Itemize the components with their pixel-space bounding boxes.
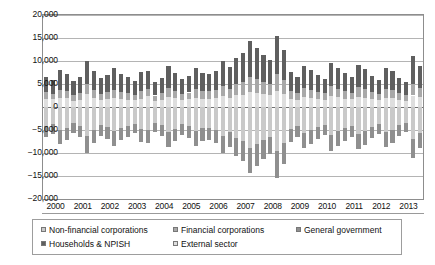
bar-segment: [65, 98, 69, 107]
bar-segment: [309, 90, 313, 98]
bar-segment: [139, 99, 143, 107]
bar-segment: [282, 107, 286, 143]
bar-group: [397, 15, 401, 199]
bar-segment: [92, 90, 96, 98]
bar-segment: [51, 94, 55, 99]
bar-segment: [377, 94, 381, 100]
bar-segment: [316, 75, 320, 92]
bar-segment: [255, 93, 259, 107]
bar-segment: [112, 98, 116, 107]
bar-segment: [248, 41, 252, 76]
bar-group: [187, 15, 191, 199]
bar-group: [173, 15, 177, 199]
x-axis-tick: 2006: [205, 202, 232, 211]
bar-segment: [160, 93, 164, 99]
plot-area: [42, 14, 424, 200]
bar-segment: [241, 141, 245, 161]
bar-group: [390, 15, 394, 199]
bar-segment: [139, 107, 143, 129]
legend-item[interactable]: General government: [296, 225, 382, 235]
bar-segment: [65, 128, 69, 140]
bar-segment: [99, 125, 103, 136]
bar-segment: [78, 93, 82, 100]
legend-item[interactable]: Non-financial corporations: [41, 225, 148, 235]
bar-segment: [180, 124, 184, 134]
bar-segment: [173, 107, 177, 129]
bar-segment: [65, 107, 69, 128]
bar-segment: [411, 56, 415, 83]
bar-segment: [336, 107, 340, 131]
bar-group: [133, 15, 137, 199]
bar-segment: [295, 126, 299, 137]
bar-segment: [65, 91, 69, 98]
bar-segment: [78, 77, 82, 93]
bar-segment: [377, 107, 381, 124]
bar-segment: [228, 107, 232, 132]
bar-segment: [282, 143, 286, 164]
bar-segment: [323, 100, 327, 107]
bar-segment: [309, 70, 313, 90]
bar-segment: [146, 107, 150, 130]
bar-segment: [207, 128, 211, 140]
bar-segment: [71, 123, 75, 133]
bar-segment: [255, 79, 259, 93]
bar-segment: [323, 79, 327, 94]
legend-swatch-icon: [173, 227, 178, 232]
stacked-column-chart: 20,00015,00010,0005,0000−5,000−10,000−15…: [0, 0, 435, 265]
bar-segment: [146, 89, 150, 96]
bar-group: [282, 15, 286, 199]
x-axis-tick: 2008: [259, 202, 286, 211]
bar-segment: [126, 77, 130, 93]
bar-segment: [153, 82, 157, 96]
bar-segment: [173, 73, 177, 91]
bar-group: [214, 15, 218, 199]
bar-segment: [350, 93, 354, 100]
bar-segment: [200, 73, 204, 91]
y-axis-tick: 5,000: [0, 79, 58, 88]
bar-segment: [289, 129, 293, 142]
legend-label: External sector: [181, 239, 238, 249]
bar-group: [85, 15, 89, 199]
bar-segment: [194, 89, 198, 98]
bar-group: [65, 15, 69, 199]
bar-segment: [187, 93, 191, 100]
bar-group: [71, 15, 75, 199]
bar-segment: [92, 98, 96, 107]
legend-item[interactable]: External sector: [173, 239, 238, 249]
bar-segment: [343, 91, 347, 99]
bar-segment: [384, 98, 388, 107]
bar-segment: [397, 93, 401, 99]
bar-segment: [228, 98, 232, 107]
x-axis-tick: 2012: [368, 202, 395, 211]
bar-group: [241, 15, 245, 199]
bar-segment: [350, 99, 354, 107]
bar-segment: [105, 127, 109, 139]
legend-item[interactable]: Financial corporations: [173, 225, 264, 235]
bar-segment: [58, 70, 62, 90]
bar-segment: [289, 72, 293, 91]
bar-group: [139, 15, 143, 199]
bar-segment: [275, 36, 279, 75]
bar-segment: [187, 99, 191, 107]
legend-item[interactable]: Households & NPISH: [41, 239, 130, 249]
bar-segment: [356, 134, 360, 150]
bar-segment: [105, 107, 109, 127]
bar-segment: [139, 91, 143, 99]
bar-group: [404, 15, 408, 199]
bar-segment: [234, 84, 238, 95]
bar-segment: [261, 107, 265, 140]
bar-group: [166, 15, 170, 199]
bar-group: [309, 15, 313, 199]
bar-segment: [180, 94, 184, 100]
bar-segment: [329, 63, 333, 86]
bar-segment: [187, 107, 191, 126]
bar-segment: [255, 144, 259, 166]
bar-segment: [99, 100, 103, 107]
bar-segment: [58, 130, 62, 144]
bar-group: [234, 15, 238, 199]
bar-group: [194, 15, 198, 199]
bar-segment: [390, 107, 394, 130]
bar-group: [302, 15, 306, 199]
bar-segment: [119, 107, 123, 128]
bar-segment: [99, 78, 103, 93]
